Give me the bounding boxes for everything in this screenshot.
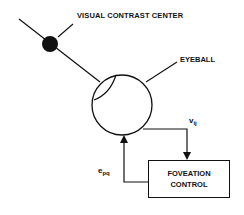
eyeball-pointer-line	[146, 62, 177, 82]
vij-arrowhead	[183, 152, 191, 160]
vij-signal-line	[143, 129, 187, 154]
foveation-control-box: FOVEATION CONTROL	[148, 160, 230, 198]
epq-arrowhead	[120, 135, 128, 143]
epq-label: epq	[98, 167, 110, 176]
visual-contrast-center-label: VISUAL CONTRAST CENTER	[77, 12, 183, 20]
visual-contrast-center-dot	[42, 36, 58, 52]
eyeball-circle	[92, 75, 152, 135]
box-line-1: FOVEATION	[167, 168, 210, 179]
vij-label: vij	[189, 117, 197, 126]
eyeball-label: EYEBALL	[180, 56, 215, 64]
box-line-2: CONTROL	[170, 179, 207, 190]
vcc-pointer-line	[58, 24, 73, 37]
epq-subscript: pq	[102, 170, 109, 176]
epq-signal-line	[124, 141, 148, 182]
line-of-sight	[19, 19, 100, 82]
vij-subscript: ij	[193, 120, 196, 126]
